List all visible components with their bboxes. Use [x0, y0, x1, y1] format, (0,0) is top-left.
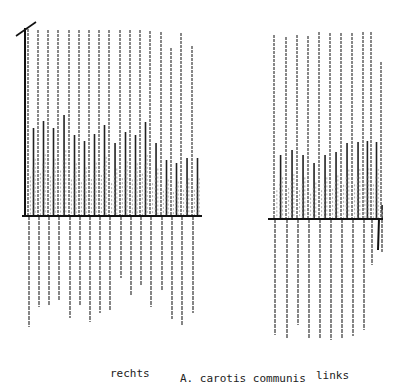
- waveform-figure: [0, 0, 397, 391]
- panel-links: [268, 32, 383, 340]
- figure-caption: A. carotis communis: [180, 372, 306, 385]
- panel-label-rechts: rechts: [110, 367, 150, 380]
- panel-label-links: links: [316, 369, 349, 382]
- panel-rechts: [22, 29, 202, 327]
